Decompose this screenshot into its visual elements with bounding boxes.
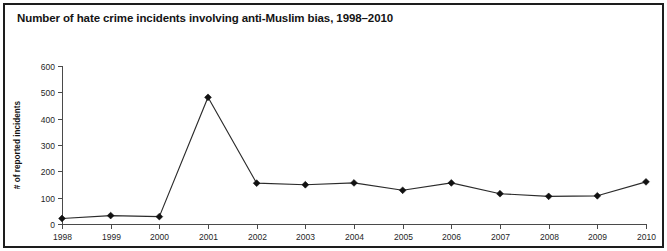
y-tick-label: 400 [41, 115, 55, 125]
x-tick-label: 2000 [150, 232, 169, 242]
x-tick-label: 1999 [102, 232, 121, 242]
y-axis-label: # of reported incidents [13, 100, 22, 189]
x-tick-label: 2010 [637, 232, 656, 242]
data-point-marker [156, 213, 163, 220]
data-point-marker [59, 215, 66, 222]
y-axis: 0100200300400500600 [41, 62, 63, 230]
data-point-marker [448, 180, 455, 187]
data-point-marker [351, 180, 358, 187]
y-axis-title: # of reported incidents [13, 100, 22, 189]
x-tick-label: 2006 [442, 232, 461, 242]
data-point-marker [205, 94, 212, 101]
chart-figure: Number of hate crime incidents involving… [0, 0, 667, 251]
x-tick-label: 2001 [199, 232, 218, 242]
x-tick-label: 2004 [345, 232, 364, 242]
data-point-marker [253, 180, 260, 187]
x-tick-label: 2002 [248, 232, 267, 242]
x-tick-label: 2007 [491, 232, 510, 242]
y-tick-label: 300 [41, 141, 55, 151]
y-tick-label: 200 [41, 167, 55, 177]
x-tick-label: 2009 [588, 232, 607, 242]
series-anti-muslim-incidents [59, 94, 650, 222]
x-tick-label: 2005 [394, 232, 413, 242]
x-tick-label: 2008 [540, 232, 559, 242]
x-tick-label: 2003 [296, 232, 315, 242]
y-tick-label: 600 [41, 62, 55, 72]
data-point-marker [399, 187, 406, 194]
data-point-marker [302, 181, 309, 188]
data-point-marker [643, 178, 650, 185]
line-chart-svg: 0100200300400500600 19981999200020012002… [0, 0, 667, 251]
data-point-marker [594, 192, 601, 199]
x-axis: 1998199920002001200220032004200520062007… [53, 224, 656, 242]
y-tick-label: 500 [41, 88, 55, 98]
y-tick-label: 100 [41, 194, 55, 204]
data-point-marker [107, 212, 114, 219]
y-tick-label: 0 [50, 220, 55, 230]
data-point-marker [545, 193, 552, 200]
data-point-marker [497, 190, 504, 197]
plot-area: 0100200300400500600 19981999200020012002… [0, 0, 667, 251]
x-tick-label: 1998 [53, 232, 72, 242]
